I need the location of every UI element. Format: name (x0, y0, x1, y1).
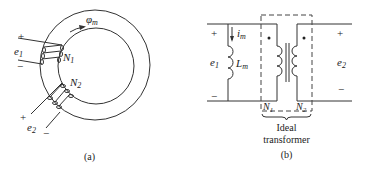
n1-label: N1 (62, 51, 74, 65)
secondary-minus-sign: − (338, 83, 344, 95)
n2-label: N2 (69, 76, 81, 90)
secondary-dot-icon (303, 37, 306, 40)
ideal-transformer-brace (262, 114, 311, 120)
transformer-label: transformer (263, 134, 310, 145)
primary-plus-sign: + (211, 27, 217, 39)
primary-minus-sign: − (211, 90, 217, 102)
caption-b: (b) (281, 149, 293, 161)
n2-label-b: N2 (295, 101, 307, 114)
im-label: im (237, 27, 246, 41)
primary-dot-icon (268, 37, 271, 40)
transformer-diagram: φm + e1 − N1 N2 + (0, 0, 365, 169)
current-arrowhead-icon (230, 36, 234, 42)
ideal-label: Ideal (277, 122, 297, 133)
e1-minus-sign: − (17, 60, 23, 72)
e2-plus-sign: + (20, 111, 26, 123)
magnetizing-inductor (228, 46, 233, 79)
e1-label: e1 (14, 45, 23, 59)
secondary-coil (292, 46, 297, 76)
winding-n2 (31, 83, 74, 128)
figure-b: im Lm + e1 − + e2 − N1 N2 Ideal transfor… (207, 15, 352, 161)
e2-minus-sign: − (43, 127, 49, 139)
e1-plus-sign: + (18, 30, 24, 42)
caption-a: (a) (84, 151, 95, 163)
lm-label: Lm (235, 57, 248, 71)
secondary-plus-sign: + (337, 27, 343, 39)
winding-n1 (18, 38, 64, 65)
secondary-e2-label: e2 (337, 56, 346, 70)
e2-label: e2 (27, 121, 36, 135)
core-inner-edge (58, 28, 134, 104)
n1-label-b: N1 (262, 101, 273, 114)
figure-a: φm + e1 − N1 N2 + (14, 10, 150, 163)
primary-e1-label: e1 (210, 56, 219, 70)
primary-coil (277, 46, 282, 76)
flux-label: φm (86, 13, 98, 27)
